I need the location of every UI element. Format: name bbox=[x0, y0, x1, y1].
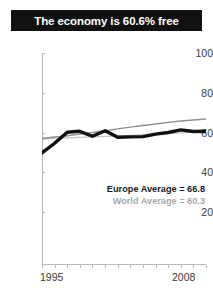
x-tick-mark-2003 bbox=[143, 265, 144, 268]
world-average-annotation: World Average = 60.3 bbox=[60, 195, 205, 207]
x-tick-mark-2008 bbox=[206, 265, 207, 268]
europe-average-annotation: Europe Average = 66.8 bbox=[60, 183, 205, 195]
x-tick-mark-2007 bbox=[193, 265, 194, 268]
x-tick-mark-1997 bbox=[67, 265, 68, 268]
chart-title: The economy is 60.6% free bbox=[34, 15, 179, 27]
annotation-block: Europe Average = 66.8 World Average = 60… bbox=[60, 183, 205, 207]
x-tick-mark-1995 bbox=[42, 265, 43, 268]
x-tick-mark-1999 bbox=[92, 265, 93, 268]
x-tick-mark-1998 bbox=[80, 265, 81, 268]
x-tick-mark-2000 bbox=[105, 265, 106, 268]
plot-area bbox=[42, 53, 206, 265]
x-tick-mark-2004 bbox=[156, 265, 157, 268]
series-lines bbox=[42, 53, 206, 265]
x-axis-start-label: 1995 bbox=[40, 271, 63, 283]
x-tick-mark-2005 bbox=[168, 265, 169, 268]
x-tick-mark-2002 bbox=[130, 265, 131, 268]
economic-freedom-chart-card: The economy is 60.6% free 100 80 60 40 2… bbox=[0, 0, 213, 301]
x-tick-mark-2006 bbox=[181, 265, 182, 268]
x-tick-mark-1996 bbox=[55, 265, 56, 268]
x-tick-mark-2001 bbox=[118, 265, 119, 268]
chart-title-banner: The economy is 60.6% free bbox=[11, 10, 202, 31]
x-axis-end-label: 2008 bbox=[172, 271, 195, 283]
